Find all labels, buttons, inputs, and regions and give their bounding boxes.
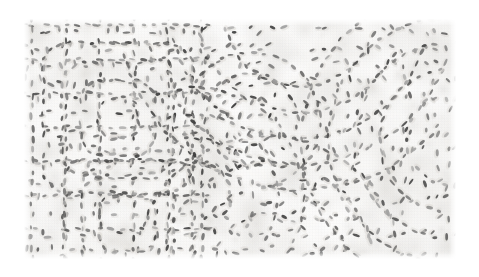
photo-frame: Macro photograph of a white quilted fabr… xyxy=(0,0,479,277)
fabric-texture-photo xyxy=(0,0,479,277)
